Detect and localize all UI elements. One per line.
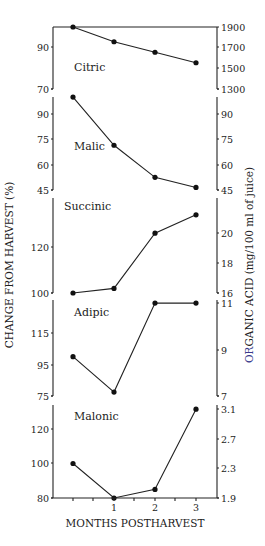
- panel-label: Citric: [74, 61, 105, 74]
- right-tick-label: 2.3: [221, 463, 236, 474]
- left-tick-label: 120: [31, 424, 49, 435]
- data-point: [193, 185, 198, 190]
- panel-malic: 9075604590756045Malic: [37, 95, 233, 196]
- data-point: [152, 175, 157, 180]
- left-tick-label: 90: [37, 109, 49, 120]
- data-point: [70, 290, 75, 295]
- panel-citric: 90701900170015001300Citric: [37, 22, 245, 95]
- panel-label: Succinic: [64, 200, 111, 213]
- right-tick-label: 1300: [221, 84, 245, 95]
- data-point: [111, 143, 116, 148]
- data-point: [152, 50, 157, 55]
- y-axis-right-title-rest: GANIC ACID (mg/100 ml of juice): [243, 167, 255, 347]
- data-point: [70, 24, 75, 29]
- x-tick-label: 3: [193, 502, 199, 513]
- right-tick-label: 2.7: [221, 434, 236, 445]
- left-tick-label: 70: [37, 84, 49, 95]
- x-tick-label: 1: [111, 502, 117, 513]
- right-tick-label: 11: [221, 298, 233, 309]
- right-tick-label: 7: [221, 391, 227, 402]
- left-tick-label: 115: [31, 328, 49, 339]
- right-tick-label: 60: [221, 160, 233, 171]
- data-point: [193, 212, 198, 217]
- right-tick-label: 1900: [221, 22, 245, 33]
- right-tick-label: 75: [221, 134, 233, 145]
- left-tick-label: 75: [37, 134, 49, 145]
- data-point: [193, 300, 198, 305]
- right-tick-label: 9: [221, 345, 227, 356]
- left-tick-label: 45: [37, 185, 49, 196]
- left-tick-label: 100: [31, 458, 49, 469]
- panel-malonic: 120100803.12.72.31.9Malonic: [31, 404, 236, 504]
- data-point: [193, 60, 198, 65]
- x-axis-title: MONTHS POSTHARVEST: [66, 517, 205, 529]
- panel-label: Malonic: [74, 410, 119, 423]
- data-point: [70, 354, 75, 359]
- x-axis: 123: [53, 498, 217, 513]
- data-point: [111, 389, 116, 394]
- organic-acid-chart: 90701900170015001300Citric90756045907560…: [0, 0, 265, 546]
- panel-adipic: 11595751197Adipic: [31, 298, 233, 402]
- left-tick-label: 60: [37, 160, 49, 171]
- panel-succinic: 120100201816Succinic: [31, 198, 233, 299]
- right-tick-label: 45: [221, 185, 233, 196]
- right-tick-label: 1700: [221, 42, 245, 53]
- panel-label: Adipic: [73, 306, 109, 319]
- left-tick-label: 95: [37, 360, 49, 371]
- right-tick-label: 18: [221, 258, 233, 269]
- left-tick-label: 80: [37, 493, 49, 504]
- left-tick-label: 120: [31, 242, 49, 253]
- data-point: [111, 39, 116, 44]
- series-line: [73, 27, 196, 63]
- x-tick-label: 2: [152, 502, 158, 513]
- y-axis-right-title: ORGANIC ACID (mg/100 ml of juice): [243, 167, 255, 363]
- left-tick-label: 90: [37, 42, 49, 53]
- series-line: [73, 215, 196, 293]
- left-tick-label: 75: [37, 391, 49, 402]
- y-axis-left-title: CHANGE FROM HARVEST (%): [3, 182, 15, 348]
- data-point: [70, 95, 75, 100]
- data-point: [111, 286, 116, 291]
- left-tick-label: 100: [31, 288, 49, 299]
- panel-label: Malic: [74, 140, 105, 153]
- right-tick-label: 3.1: [221, 404, 236, 415]
- data-point: [70, 461, 75, 466]
- y-axis-right-title-accent: OR: [243, 345, 255, 363]
- data-point: [152, 487, 157, 492]
- data-point: [152, 231, 157, 236]
- right-tick-label: 1500: [221, 63, 245, 74]
- chart-panels: 90701900170015001300Citric90756045907560…: [31, 22, 245, 504]
- right-tick-label: 1.9: [221, 493, 236, 504]
- data-point: [193, 407, 198, 412]
- right-tick-label: 20: [221, 228, 233, 239]
- right-tick-label: 90: [221, 109, 233, 120]
- data-point: [152, 300, 157, 305]
